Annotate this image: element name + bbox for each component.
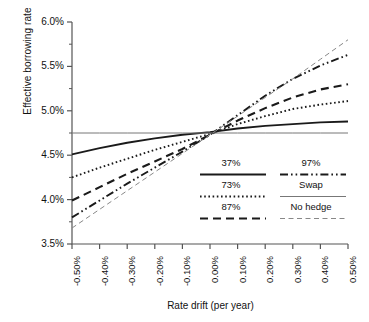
series-line-37- (72, 121, 348, 154)
legend-item: 37% (196, 157, 266, 179)
legend-swatch (200, 172, 262, 176)
legend-swatch (200, 194, 262, 198)
legend-label: No hedge (276, 201, 346, 212)
legend-swatch (200, 216, 262, 220)
legend-item: Swap (276, 179, 346, 201)
legend-item: 87% (196, 201, 266, 223)
legend-label: 87% (196, 201, 266, 212)
legend-item: No hedge (276, 201, 346, 223)
legend-label: 37% (196, 157, 266, 168)
legend-swatch (280, 172, 342, 176)
legend-label: 73% (196, 179, 266, 190)
legend-label: Swap (276, 179, 346, 190)
chart-legend: 37%97%73%Swap87%No hedge (196, 157, 346, 223)
x-axis-title: Rate drift (per year) (72, 300, 349, 311)
chart-figure: Effective borrowing rate 3.5%4.0%4.5%5.0… (0, 0, 369, 322)
legend-swatch (280, 216, 342, 220)
legend-label: 97% (276, 157, 346, 168)
legend-item: 97% (276, 157, 346, 179)
legend-item: 73% (196, 179, 266, 201)
legend-swatch (280, 194, 342, 198)
